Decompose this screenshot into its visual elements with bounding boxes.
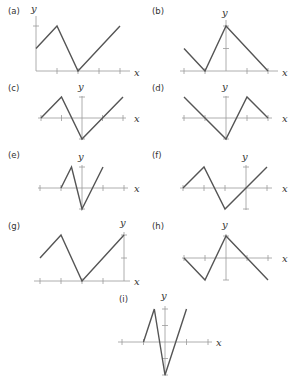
- y-axis-label: y: [30, 3, 37, 14]
- panel-c: (c)yx: [8, 81, 140, 140]
- x-axis-label: x: [134, 67, 140, 78]
- x-axis-label: x: [282, 183, 288, 194]
- x-axis-label: x: [134, 113, 140, 124]
- panel-label: (c): [8, 83, 19, 93]
- panel-label: (b): [152, 6, 164, 16]
- panel-label: (e): [8, 150, 20, 160]
- y-axis-label: y: [119, 217, 126, 228]
- x-axis-label: x: [216, 337, 222, 348]
- panel-a: (a)yx: [8, 3, 140, 78]
- panel-label: (a): [8, 6, 20, 16]
- y-axis-label: y: [221, 81, 228, 92]
- y-axis-label: y: [77, 151, 84, 162]
- panel-d: (d)yx: [152, 81, 288, 140]
- panel-b: (b)yx: [152, 6, 288, 78]
- y-axis-label: y: [160, 290, 167, 301]
- graph-curve: [40, 235, 124, 281]
- panel-label: (d): [152, 83, 164, 93]
- panel-label: (i): [119, 294, 128, 304]
- graph-figure: (a)yx(b)yx(c)yx(d)yx(e)yx(f)yx(g)yx(h)yx…: [0, 0, 295, 388]
- y-axis-label: y: [241, 151, 248, 162]
- panel-label: (h): [152, 221, 164, 231]
- panel-e: (e)yx: [8, 150, 140, 210]
- y-axis-label: y: [221, 219, 228, 230]
- x-axis-label: x: [282, 253, 288, 264]
- graph-curve: [36, 26, 120, 71]
- panel-label: (f): [152, 150, 162, 160]
- y-axis-label: y: [221, 7, 228, 18]
- panel-h: (h)yx: [152, 219, 288, 280]
- x-axis-label: x: [282, 113, 288, 124]
- panel-label: (g): [8, 221, 20, 231]
- y-axis-label: y: [77, 81, 84, 92]
- x-axis-label: x: [134, 276, 140, 287]
- panel-f: (f)yx: [152, 150, 288, 210]
- panel-g: (g)yx: [8, 217, 140, 287]
- x-axis-label: x: [282, 67, 288, 78]
- panel-i: (i)yx: [118, 290, 222, 376]
- x-axis-label: x: [134, 183, 140, 194]
